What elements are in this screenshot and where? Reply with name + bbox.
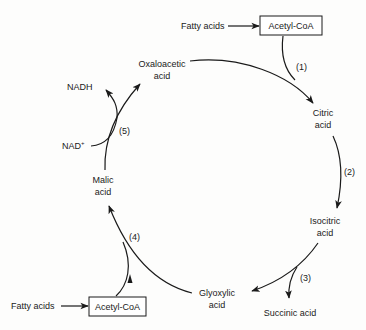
citric-acid-line2: acid [315,120,332,130]
step3-arrow [252,243,318,291]
acetyl-coa-top-label: Acetyl-CoA [268,21,313,31]
step1-arrow [190,60,313,103]
step1-label: (1) [296,62,307,72]
oxaloacetic-acid-line1: Oxaloacetic [138,59,186,69]
isocitric-acid-line1: Isocitric [310,216,341,226]
acetyl-coa-bottom-input-arrowhead [128,274,133,283]
isocitric-acid-line2: acid [317,228,334,238]
diagram-canvas: Fatty acids Acetyl-CoA (1) Oxaloacetic a… [0,0,366,330]
fatty-acids-top-label: Fatty acids [181,21,225,31]
step4-label: (4) [129,232,140,242]
oxaloacetic-acid-line2: acid [154,71,171,81]
citric-acid-line1: Citric [313,108,334,118]
step2-arrow [333,136,341,208]
step3-label: (3) [300,273,311,283]
glyoxylic-acid-line2: acid [209,300,226,310]
glyoxylic-acid-line1: Glyoxylic [199,288,236,298]
bottom-fatty-acids-group: Fatty acids Acetyl-CoA [11,297,146,316]
malic-acid-line2: acid [95,187,112,197]
step2-label: (2) [344,167,355,177]
top-fatty-acids-group: Fatty acids Acetyl-CoA [181,16,322,35]
nadh-label: NADH [67,82,93,92]
glyoxylate-cycle-diagram: Fatty acids Acetyl-CoA (1) Oxaloacetic a… [0,0,366,330]
acetyl-coa-bottom-input-curve [116,242,128,296]
fatty-acids-bottom-label: Fatty acids [11,301,55,311]
nad-plus-label: NAD+ [62,140,85,151]
succinic-acid-label: Succinic acid [264,308,317,318]
step4-arrow [109,206,192,293]
step5-label: (5) [119,126,130,136]
acetyl-coa-bottom-label: Acetyl-CoA [95,302,140,312]
acetyl-coa-top-input-curve [282,36,295,80]
malic-acid-line1: Malic [92,175,114,185]
nad-to-nadh-arrow [91,90,117,146]
